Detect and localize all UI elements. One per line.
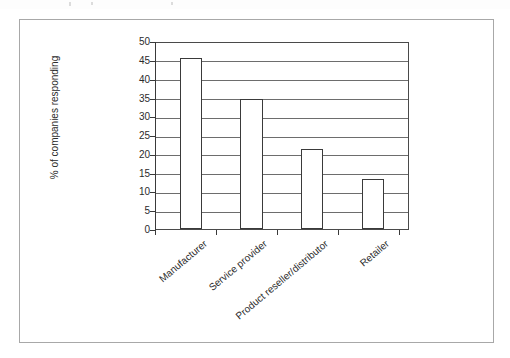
y-tick-25 bbox=[150, 136, 155, 137]
y-tick-label-0: 0 bbox=[126, 225, 150, 235]
y-tick-50 bbox=[150, 42, 155, 43]
y-tick-label-50: 50 bbox=[126, 37, 150, 47]
y-tick-label-45: 45 bbox=[126, 56, 150, 66]
bar-chart: 50 45 40 35 30 25 20 15 10 5 0 % of comp… bbox=[20, 20, 495, 344]
x-tick-2 bbox=[277, 230, 278, 235]
scan-top-edge-artifact bbox=[0, 0, 510, 9]
plot-area bbox=[155, 42, 409, 230]
y-tick-5 bbox=[150, 211, 155, 212]
y-tick-label-15: 15 bbox=[126, 169, 150, 179]
y-tick-label-35: 35 bbox=[126, 94, 150, 104]
y-tick-35 bbox=[150, 99, 155, 100]
x-tick-4 bbox=[399, 230, 400, 235]
bar-product-reseller-distributor[interactable] bbox=[301, 149, 323, 229]
y-tick-40 bbox=[150, 80, 155, 81]
x-tick-3 bbox=[338, 230, 339, 235]
y-tick-label-5: 5 bbox=[126, 206, 150, 216]
y-tick-20 bbox=[150, 155, 155, 156]
x-tick-1 bbox=[216, 230, 217, 235]
y-tick-30 bbox=[150, 117, 155, 118]
y-tick-45 bbox=[150, 61, 155, 62]
x-tick-0 bbox=[155, 230, 156, 235]
bar-manufacturer[interactable] bbox=[180, 58, 202, 229]
y-tick-label-20: 20 bbox=[126, 150, 150, 160]
bar-retailer[interactable] bbox=[362, 179, 384, 229]
y-tick-label-40: 40 bbox=[126, 75, 150, 85]
y-axis-title: % of companies responding bbox=[49, 38, 60, 198]
bar-service-provider[interactable] bbox=[240, 99, 263, 229]
y-tick-label-30: 30 bbox=[126, 112, 150, 122]
y-tick-15 bbox=[150, 174, 155, 175]
y-axis-line bbox=[155, 42, 156, 231]
y-tick-label-10: 10 bbox=[126, 187, 150, 197]
y-tick-label-25: 25 bbox=[126, 131, 150, 141]
figure-frame: 50 45 40 35 30 25 20 15 10 5 0 % of comp… bbox=[19, 19, 494, 343]
y-tick-10 bbox=[150, 192, 155, 193]
